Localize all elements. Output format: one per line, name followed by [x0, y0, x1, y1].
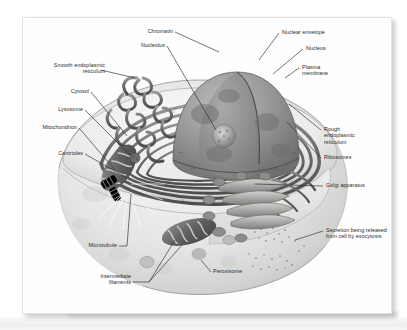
label-nucleus: Nucleus [306, 45, 356, 51]
screenshot-root: Smooth endoplasmic reticulum Cytosol Lys… [0, 0, 407, 330]
label-mitochondrion: Mitochondrion [23, 124, 77, 130]
label-centrioles: Centrioles [31, 150, 83, 156]
leader-nuclear-envelope [259, 33, 279, 60]
leader-plasma-membrane [285, 68, 299, 78]
label-peroxisome: Peroxisome [213, 268, 267, 274]
label-nucleolus: Nucleolus [115, 42, 165, 48]
label-ribosomes: Ribosomes [324, 154, 374, 160]
label-cytosol: Cytosol [35, 88, 89, 94]
label-golgi-apparatus: Golgi apparatus [326, 182, 390, 188]
label-lysosome: Lysosome [31, 106, 83, 112]
figure-panel: Smooth endoplasmic reticulum Cytosol Lys… [22, 17, 392, 314]
label-intermediate-filaments: Intermediate filaments [73, 273, 131, 286]
leader-smooth-er [101, 70, 135, 78]
label-plasma-membrane: Plasma membrane [302, 64, 352, 77]
label-chromatin: Chromatin [121, 28, 173, 34]
label-microtubule: Microtubule [59, 242, 117, 248]
label-smooth-endoplasmic-reticulum: Smooth endoplasmic reticulum [35, 62, 105, 75]
leader-nucleus [273, 49, 303, 74]
leader-chromatin [175, 32, 219, 52]
label-rough-endoplasmic-reticulum: Rough endoplasmic reticulum [324, 126, 372, 145]
label-secretion-exocytosis: Secretion being released from cell by ex… [326, 227, 392, 240]
label-nuclear-envelope: Nuclear envelope [282, 29, 362, 35]
lysosome-shape [130, 153, 140, 163]
